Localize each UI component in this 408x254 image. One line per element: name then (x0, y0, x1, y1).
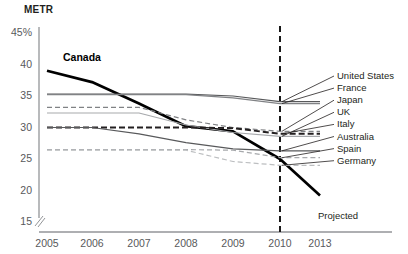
y-axis-tick-30: 30 (2, 121, 32, 133)
legend-label-germany: Germany (337, 155, 376, 166)
legend-label-italy: Italy (337, 118, 354, 129)
x-axis-tick-2005: 2005 (25, 237, 69, 249)
projected-annotation: Projected (318, 210, 358, 221)
canada-series-label: Canada (63, 51, 101, 63)
legend-label-uk: UK (337, 106, 350, 117)
y-axis-tick-20: 20 (2, 184, 32, 196)
legend-label-australia: Australia (337, 131, 374, 142)
x-axis-tick-2010: 2010 (258, 237, 302, 249)
x-axis-tick-2006: 2006 (70, 237, 114, 249)
y-axis-tick-45: 45% (2, 26, 32, 38)
legend-leader-united-states (282, 76, 334, 102)
legend-label-spain: Spain (337, 143, 361, 154)
series-line-france (47, 95, 320, 104)
y-axis-tick-25: 25 (2, 152, 32, 164)
x-axis-tick-2013: 2013 (298, 237, 342, 249)
chart-container: METR Canada Projected United StatesFranc… (0, 0, 408, 254)
y-axis-tick-40: 40 (2, 58, 32, 70)
legend-leader-italy (282, 124, 334, 133)
legend-leader-australia (282, 137, 334, 151)
x-axis-tick-2008: 2008 (164, 237, 208, 249)
legend-leader-spain (282, 149, 334, 158)
legend-leader-germany (282, 161, 334, 166)
legend-label-japan: Japan (337, 94, 363, 105)
x-axis-tick-2009: 2009 (211, 237, 255, 249)
y-axis-tick-35: 35 (2, 89, 32, 101)
legend-label-united-states: United States (337, 70, 394, 81)
series-line-canada (47, 71, 320, 196)
legend-label-france: France (337, 82, 367, 93)
x-axis-tick-2007: 2007 (117, 237, 161, 249)
y-axis-tick-15: 15 (2, 215, 32, 227)
series-line-uk (47, 113, 320, 136)
axis-break-icon (35, 216, 45, 227)
